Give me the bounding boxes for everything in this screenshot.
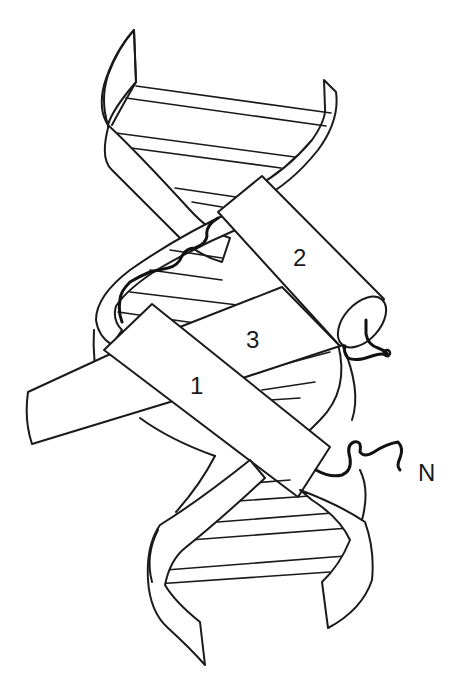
dna-bottom-section	[148, 460, 373, 665]
helix-1-label: 1	[190, 372, 203, 399]
helix-3-label: 3	[246, 326, 259, 353]
dna-protein-diagram: 3 2 1 N	[0, 0, 460, 696]
helix-2-label: 2	[293, 244, 306, 271]
n-terminus-label: N	[418, 459, 435, 486]
